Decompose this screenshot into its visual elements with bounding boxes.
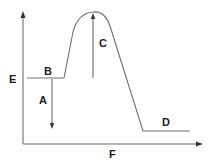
label-d: D	[162, 116, 170, 128]
arrow-c	[91, 13, 95, 78]
x-axis-label: F	[109, 148, 116, 160]
energy-diagram: E F B A C D	[0, 0, 211, 162]
x-axis	[23, 142, 203, 147]
label-a: A	[39, 94, 47, 106]
arrow-c-head-icon	[91, 13, 95, 19]
arrow-a	[50, 79, 54, 129]
y-axis	[21, 11, 26, 144]
label-b: B	[44, 65, 52, 77]
arrow-a-head-icon	[50, 123, 54, 129]
y-axis-label: E	[9, 73, 16, 85]
y-axis-arrow-icon	[21, 11, 26, 18]
x-axis-arrow-icon	[196, 142, 203, 147]
label-c: C	[99, 37, 107, 49]
